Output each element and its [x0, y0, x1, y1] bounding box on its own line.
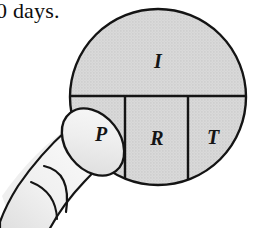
caption-text-fragment: 0 days. — [0, 0, 60, 24]
figure-root: 0 days. — [0, 0, 253, 228]
segment-label-i: I — [153, 50, 163, 72]
segment-label-t: T — [207, 126, 220, 148]
segment-label-p: P — [94, 123, 108, 145]
segment-label-r: R — [149, 127, 163, 149]
formula-circle-diagram: I R T P — [0, 0, 253, 228]
